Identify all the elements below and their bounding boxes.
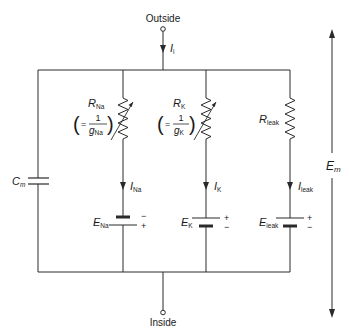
svg-text:): ) [107, 113, 114, 135]
sodium-battery-bottom-sign: + [141, 221, 146, 231]
svg-text:=: = [81, 119, 86, 129]
potassium-current-arrow-icon [203, 182, 209, 190]
leak-current-arrow-icon [287, 182, 293, 190]
potassium-branch: IK RK ( = 1 gK ) + − EK [157, 70, 229, 272]
svg-text:=: = [165, 119, 170, 129]
svg-text:gNa: gNa [89, 125, 103, 136]
svg-text:1: 1 [178, 113, 183, 123]
inside-terminal: Inside [150, 272, 177, 328]
outside-label: Outside [146, 13, 181, 24]
sodium-branch: INa RNa ( = 1 gNa ) − + ENa [73, 70, 146, 272]
membrane-potential-indicator: Em [326, 29, 341, 318]
sodium-battery-label: ENa [93, 216, 109, 229]
total-current-label: Ii [170, 42, 175, 55]
sodium-battery-top-sign: − [141, 211, 146, 221]
outside-terminal: Outside Ii [146, 13, 181, 70]
potassium-battery-label: EK [181, 216, 193, 229]
potassium-current-label: IK [214, 180, 222, 193]
sodium-current-label: INa [130, 180, 142, 193]
leak-resistor-label: Rleak [259, 113, 280, 126]
sodium-current-arrow-icon [120, 182, 126, 190]
svg-text:): ) [189, 113, 196, 135]
sodium-conductance-note: ( = 1 gNa ) [73, 113, 114, 136]
outside-terminal-node [161, 27, 166, 32]
membrane-potential-label: Em [326, 159, 341, 174]
leak-branch: Ileak Rleak + − Eleak [259, 70, 314, 272]
leak-current-label: Ileak [298, 180, 314, 193]
potassium-conductance-note: ( = 1 gK ) [157, 113, 196, 136]
svg-text:(: ( [73, 113, 80, 135]
capacitor-label: Cm [12, 175, 26, 188]
svg-text:gK: gK [174, 125, 185, 136]
membrane-equivalent-circuit: Outside Ii Cm INa RNa ( = 1 gNa ) [0, 0, 349, 331]
capacitor-branch: Cm [12, 70, 49, 272]
svg-text:1: 1 [95, 113, 100, 123]
sodium-resistor-label: RNa [88, 97, 105, 110]
inside-terminal-node [161, 310, 166, 315]
leak-battery-bottom-sign: − [307, 222, 312, 232]
arrow-up-icon [329, 29, 335, 38]
potassium-battery-bottom-sign: − [224, 222, 229, 232]
potassium-resistor-label: RK [173, 97, 186, 110]
leak-resistor-icon [285, 98, 295, 139]
inside-label: Inside [150, 317, 177, 328]
total-current-arrow-icon [160, 45, 166, 53]
arrow-down-icon [329, 309, 335, 318]
svg-text:(: ( [157, 113, 164, 135]
